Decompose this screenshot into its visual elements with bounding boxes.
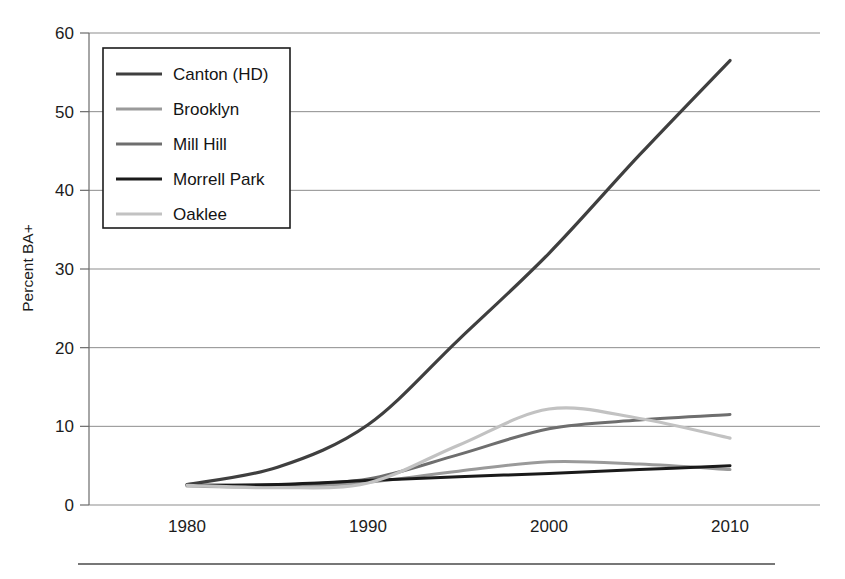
y-axis-title: Percent BA+: [19, 224, 36, 311]
legend-label-morrell-park[interactable]: Morrell Park: [173, 170, 265, 189]
y-tick-label: 40: [55, 181, 74, 200]
x-tick-label: 2010: [711, 517, 749, 536]
y-tick-label: 0: [65, 496, 74, 515]
line-chart: 0102030405060 1980199020002010 Percent B…: [0, 0, 845, 579]
y-tick-label: 10: [55, 417, 74, 436]
series-line-brooklyn: [187, 461, 730, 487]
x-tick-label: 1990: [349, 517, 387, 536]
y-axis: [80, 33, 89, 505]
legend[interactable]: Canton (HD)BrooklynMill HillMorrell Park…: [103, 48, 290, 228]
series-line-mill-hill: [187, 415, 730, 486]
x-tick-label: 2000: [530, 517, 568, 536]
y-tick-label: 20: [55, 339, 74, 358]
y-tick-labels: 0102030405060: [55, 24, 74, 515]
x-tick-label: 1980: [168, 517, 206, 536]
legend-label-oaklee[interactable]: Oaklee: [173, 205, 227, 224]
legend-label-mill-hill[interactable]: Mill Hill: [173, 135, 227, 154]
x-tick-labels: 1980199020002010: [168, 517, 749, 536]
y-tick-label: 50: [55, 103, 74, 122]
y-tick-label: 30: [55, 260, 74, 279]
figure-container: 0102030405060 1980199020002010 Percent B…: [0, 0, 845, 579]
legend-label-canton-hd[interactable]: Canton (HD): [173, 65, 268, 84]
y-tick-label: 60: [55, 24, 74, 43]
legend-label-brooklyn[interactable]: Brooklyn: [173, 100, 239, 119]
